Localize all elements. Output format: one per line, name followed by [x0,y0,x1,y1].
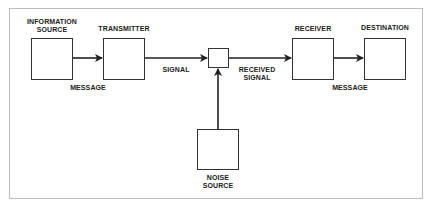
destination-box [364,38,406,80]
noise-source-label-line2: SOURCE [188,182,248,190]
noise-source-label-line1: NOISE [188,174,248,182]
message-label-left: MESSAGE [68,84,108,92]
received-signal-label-line1: RECEIVED [232,66,282,74]
noise-source-box [197,129,239,170]
received-signal-label: RECEIVED SIGNAL [232,66,282,82]
transmitter-box [103,38,145,80]
signal-label: SIGNAL [156,66,196,74]
information-source-label-line1: INFORMATION [22,18,82,26]
transmitter-label: TRANSMITTER [94,25,154,33]
receiver-label: RECEIVER [283,25,343,33]
information-source-label-line2: SOURCE [22,26,82,34]
receiver-box [292,38,334,80]
destination-label: DESTINATION [355,24,415,32]
noise-source-label: NOISE SOURCE [188,174,248,190]
information-source-label: INFORMATION SOURCE [22,18,82,34]
mixer-box [208,48,229,68]
message-label-right: MESSAGE [330,84,370,92]
received-signal-label-line2: SIGNAL [232,74,282,82]
information-source-box [31,38,73,80]
